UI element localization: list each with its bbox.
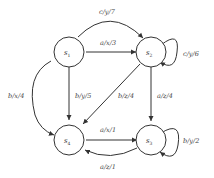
edge-s3-s4 (85, 148, 137, 156)
state-diagram: s1 s2 s4 s3 c/y/7 a/x/3 c/y/6 b/x/4 b/y/… (0, 0, 214, 178)
state-s4: s4 (54, 125, 84, 155)
edge-s1-s4-curve (32, 61, 54, 135)
label-a-x-1: a/x/1 (100, 126, 116, 134)
state-s1: s1 (54, 37, 84, 67)
label-b-y-2: b/y/2 (183, 137, 199, 145)
state-s2: s2 (136, 37, 166, 67)
label-b-z-4: b/z/4 (118, 92, 134, 100)
label-a-z-4: a/z/4 (157, 92, 173, 100)
edge-s1-s2-top (78, 21, 143, 38)
label-c-y-6: c/y/6 (183, 50, 199, 58)
label-a-z-1: a/z/1 (100, 163, 116, 171)
label-a-x-3: a/x/3 (100, 39, 116, 47)
label-c-y-7: c/y/7 (99, 8, 116, 16)
state-s3: s3 (136, 125, 166, 155)
label-b-x-4: b/x/4 (8, 92, 24, 100)
label-b-y-5: b/y/5 (75, 92, 91, 100)
